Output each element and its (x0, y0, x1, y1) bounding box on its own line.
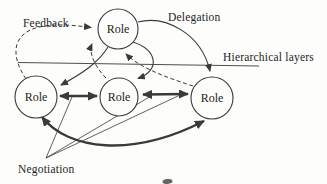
role-node-right-label: Role (201, 91, 224, 105)
edge-feedback-left-to-top (16, 25, 91, 79)
edge-delegation-top-to-middle (133, 42, 153, 79)
edge-delegation-top-to-right (138, 21, 210, 71)
delegation-label: Delegation (168, 11, 221, 24)
diagram-canvas: Role Role Role Role Feedback Delegation … (0, 0, 327, 184)
edge-negotiation-left-right-arc (42, 117, 204, 145)
negotiation-label: Negotiation (18, 163, 75, 176)
edge-delegation-top-to-left (61, 47, 108, 85)
edge-negotiation-middle-right (143, 94, 188, 95)
role-node-top-label: Role (107, 22, 130, 36)
feedback-label: Feedback (23, 17, 69, 29)
role-diagram-svg: Role Role Role Role Feedback Delegation … (0, 0, 327, 184)
hierarchical-layers-line (18, 63, 259, 67)
edge-feedback-middle-to-top (91, 44, 106, 78)
hierarchical-layers-label: Hierarchical layers (223, 51, 314, 64)
edge-feedback-right-to-top (126, 54, 193, 86)
role-node-left-label: Role (25, 90, 48, 104)
scan-artifact (162, 179, 172, 184)
role-node-middle-label: Role (108, 90, 131, 104)
